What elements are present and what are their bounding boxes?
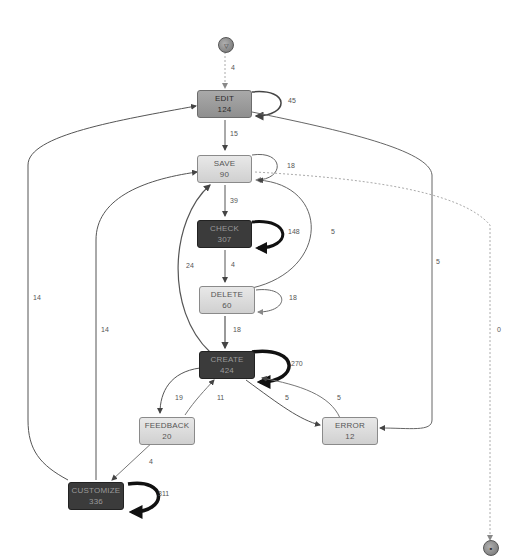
node-edit[interactable]: EDIT 124	[197, 90, 252, 118]
node-customize[interactable]: CUSTOMIZE 336	[68, 482, 124, 510]
edge-label-customize-edit: 14	[33, 294, 41, 301]
node-label: ERROR	[335, 420, 365, 431]
node-error[interactable]: ERROR 12	[322, 417, 378, 445]
node-label: EDIT	[215, 93, 234, 104]
edge-label-create-self: 270	[291, 360, 303, 367]
node-delete[interactable]: DELETE 60	[199, 286, 255, 314]
node-count: 20	[162, 431, 171, 442]
edge-label-create-save: 24	[186, 262, 194, 269]
node-label: CUSTOMIZE	[72, 485, 121, 496]
edge-label-check-self: 148	[288, 228, 300, 235]
edge-label-customize-self: 311	[158, 490, 169, 497]
edge-customize-self	[128, 483, 159, 512]
node-label: CREATE	[210, 354, 243, 365]
edge-create-feedback	[160, 368, 200, 413]
node-label: SAVE	[214, 158, 236, 169]
edge-label-error-create: 5	[337, 394, 341, 401]
node-count: 336	[89, 496, 103, 507]
edge-label-save-self: 18	[287, 162, 295, 169]
edge-label-edit-self: 45	[288, 97, 296, 104]
node-feedback[interactable]: FEEDBACK 20	[139, 417, 195, 445]
end-node[interactable]: ■	[483, 540, 499, 556]
node-label: FEEDBACK	[145, 420, 190, 431]
edge-label-delete-self: 18	[289, 294, 297, 301]
edge-label-feedback-create: 11	[217, 394, 224, 401]
edge-label-customize-save: 14	[101, 326, 109, 333]
edge-label-create-error: 5	[285, 394, 289, 401]
edge-label-start-edit: 4	[231, 64, 235, 71]
edge-feedback-create	[185, 380, 214, 415]
start-icon: ▽	[224, 42, 229, 49]
node-count: 124	[218, 104, 232, 115]
edge-label-check-delete: 4	[231, 261, 235, 268]
edge-label-edit-error: 5	[436, 258, 440, 265]
node-count: 307	[218, 234, 232, 245]
node-count: 60	[222, 300, 231, 311]
node-count: 90	[220, 169, 229, 180]
node-check[interactable]: CHECK 307	[197, 220, 252, 248]
edge-label-edit-save: 15	[230, 130, 238, 137]
edge-create-save	[178, 185, 210, 352]
edge-create-error	[246, 380, 320, 425]
node-label: DELETE	[211, 289, 243, 300]
edge-edit-self	[252, 92, 281, 116]
node-count: 12	[345, 431, 354, 442]
edge-error-create	[262, 378, 340, 418]
edge-label-delete-save: 5	[331, 228, 335, 235]
node-label: CHECK	[210, 223, 239, 234]
node-create[interactable]: CREATE 424	[199, 351, 255, 379]
node-count: 424	[220, 365, 234, 376]
edge-label-feedback-customize: 4	[149, 458, 153, 465]
edge-check-self	[252, 222, 283, 248]
end-icon: ■	[490, 546, 492, 551]
edge-label-save-check: 39	[230, 197, 238, 204]
node-save[interactable]: SAVE 90	[197, 155, 252, 183]
edge-label-delete-create: 18	[233, 326, 241, 333]
edge-save-self	[252, 154, 277, 180]
edge-delete-self	[256, 290, 282, 312]
edge-label-create-feedback: 19	[175, 394, 183, 401]
edge-create-self	[252, 351, 289, 382]
start-node[interactable]: ▽	[218, 37, 234, 53]
edge-label-save-end: 0	[497, 326, 501, 333]
